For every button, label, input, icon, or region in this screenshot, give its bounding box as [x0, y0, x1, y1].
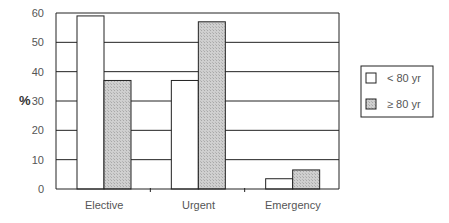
bar-emergency-80-plus	[293, 170, 320, 189]
bar-emergency-under-80	[266, 179, 293, 189]
x-category-label: Urgent	[182, 199, 215, 211]
y-tick-label: 50	[32, 36, 44, 48]
y-axis-label: %	[19, 93, 31, 108]
y-tick-label: 0	[38, 183, 44, 195]
x-category-label: Emergency	[265, 199, 321, 211]
y-tick-label: 60	[32, 7, 44, 19]
bar-elective-80-plus	[104, 80, 131, 189]
legend-label-80-plus: ≥ 80 yr	[387, 98, 421, 110]
bar-urgent-under-80	[171, 80, 198, 189]
bar-chart: 0102030405060 ElectiveUrgentEmergency % …	[0, 0, 449, 223]
y-tick-label: 10	[32, 154, 44, 166]
bar-elective-under-80	[77, 16, 104, 189]
legend-swatch-80-plus	[366, 99, 376, 109]
legend-swatch-under-80	[366, 73, 376, 83]
y-tick-label: 20	[32, 124, 44, 136]
y-axis-tick-labels: 0102030405060	[32, 7, 44, 195]
legend-label-under-80: < 80 yr	[387, 72, 421, 84]
x-axis-category-labels: ElectiveUrgentEmergency	[85, 199, 321, 211]
y-tick-label: 40	[32, 66, 44, 78]
legend: < 80 yr ≥ 80 yr	[361, 66, 433, 117]
bar-urgent-80-plus	[198, 22, 225, 189]
x-category-label: Elective	[85, 199, 124, 211]
y-tick-label: 30	[32, 95, 44, 107]
